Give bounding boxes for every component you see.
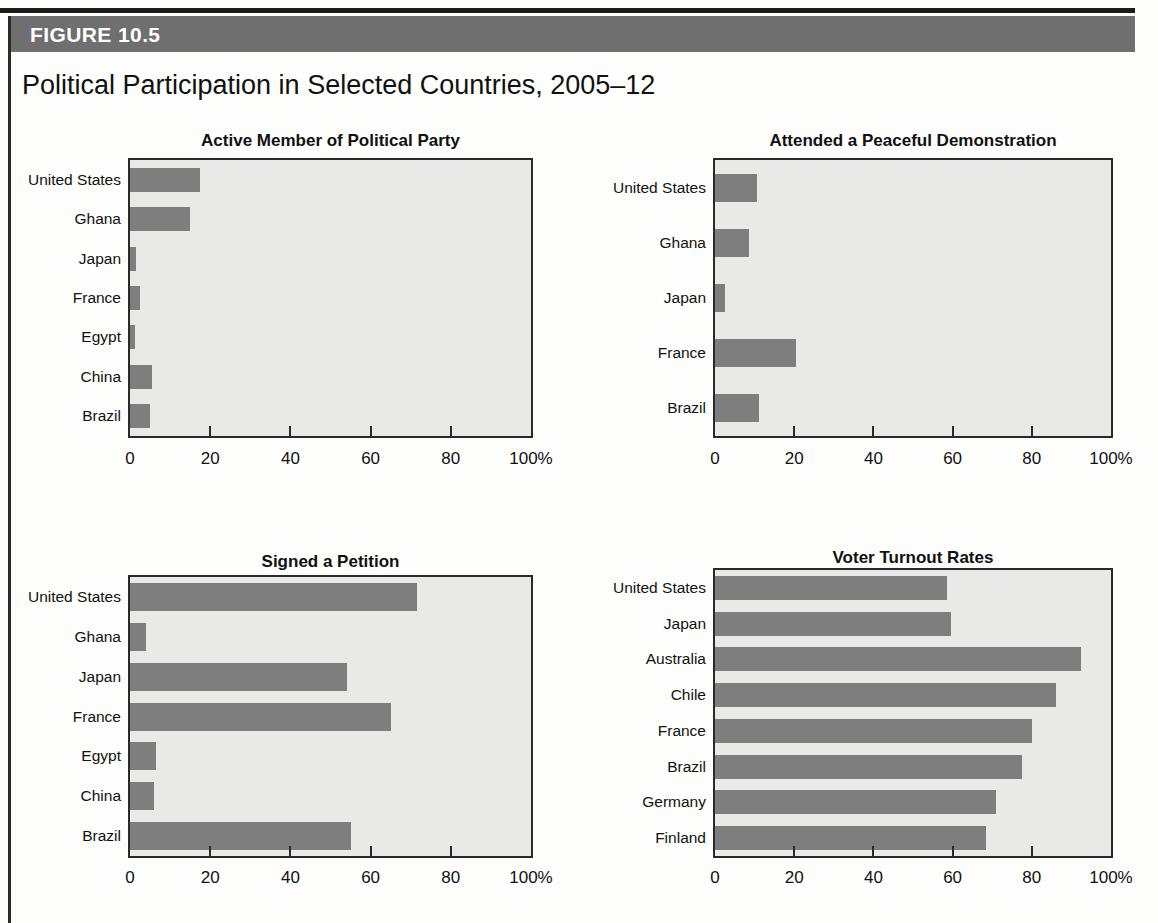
x-axis-tick-label: 20 [201,449,220,469]
figure-title: Political Participation in Selected Coun… [22,70,655,101]
x-axis-tick-label: 0 [710,449,719,469]
x-axis-tick [1031,426,1033,438]
chart-title: Active Member of Political Party [128,131,533,151]
x-axis-tick-label: 40 [864,449,883,469]
bar [715,339,796,367]
page-top-rule [0,8,1135,13]
x-axis-tick-label: 20 [201,868,220,888]
x-axis-tick-label: 60 [361,449,380,469]
figure-number-label: FIGURE 10.5 [30,23,160,47]
x-axis-tick [370,426,372,438]
category-label: France [0,344,706,362]
x-axis-tick-label: 100% [509,868,552,888]
x-axis-tick [209,846,211,858]
x-axis-tick-label: 0 [710,868,719,888]
bar [715,284,725,312]
category-label: United States [0,579,706,597]
bar [715,229,749,257]
plot-area [713,158,1113,438]
x-axis-tick [450,846,452,858]
x-axis-tick-label: 80 [441,449,460,469]
category-label: Chile [0,686,706,704]
x-axis-tick-label: 100% [509,449,552,469]
category-label: Germany [0,793,706,811]
x-axis-tick-label: 80 [1022,449,1041,469]
x-axis-tick-label: 40 [864,868,883,888]
chart-title: Voter Turnout Rates [713,548,1113,568]
bar [715,576,947,600]
bar [715,394,759,422]
x-axis-tick-label: 20 [785,868,804,888]
bar [715,683,1056,707]
category-label: Brazil [0,399,706,417]
bar [715,755,1022,779]
category-label: Finland [0,829,706,847]
x-axis-tick-label: 100% [1089,449,1132,469]
category-label: United States [0,179,706,197]
x-axis-tick [289,426,291,438]
x-axis-tick-label: 20 [785,449,804,469]
x-axis-tick-label: 60 [943,868,962,888]
bar [715,612,951,636]
chart-title: Signed a Petition [128,552,533,572]
category-label: China [0,368,121,386]
x-axis-tick [289,846,291,858]
x-axis-tick [793,426,795,438]
x-axis-tick [370,846,372,858]
bar [130,365,152,389]
x-axis-tick [450,426,452,438]
x-axis-tick-label: 40 [281,868,300,888]
x-axis-tick-label: 60 [361,868,380,888]
category-label: Japan [0,289,706,307]
x-axis-tick [952,846,954,858]
category-label: Brazil [0,758,706,776]
category-label: Ghana [0,234,706,252]
x-axis-tick [872,846,874,858]
category-label: Japan [0,250,121,268]
figure-banner: FIGURE 10.5 [11,16,1135,52]
category-label: Japan [0,668,121,686]
x-axis-tick [952,426,954,438]
bar [715,647,1081,671]
category-label: Ghana [0,210,121,228]
bar [130,207,190,231]
category-label: Australia [0,650,706,668]
x-axis-tick [209,426,211,438]
x-axis-tick [872,426,874,438]
bar [715,790,996,814]
x-axis-tick-label: 80 [1022,868,1041,888]
chart-title: Attended a Peaceful Demonstration [713,131,1113,151]
x-axis-tick-label: 40 [281,449,300,469]
x-axis-tick-label: 0 [125,449,134,469]
category-label: France [0,722,706,740]
bar [715,174,757,202]
x-axis-tick-label: 80 [441,868,460,888]
x-axis-tick [1031,846,1033,858]
x-axis-tick-label: 0 [125,868,134,888]
category-label: Japan [0,615,706,633]
plot-area [713,568,1113,858]
bar [715,826,986,850]
x-axis-tick [793,846,795,858]
bar [715,719,1032,743]
x-axis-tick-label: 100% [1089,868,1132,888]
x-axis-tick-label: 60 [943,449,962,469]
figure-page: FIGURE 10.5 Political Participation in S… [0,0,1158,923]
